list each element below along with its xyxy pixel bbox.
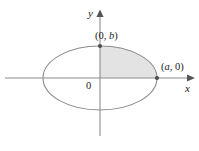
origin-label: 0 <box>86 81 91 92</box>
point-label-right-vertex: (a, 0) <box>161 62 184 73</box>
point-label-top-suffix: ) <box>114 30 118 41</box>
y-axis-label: y <box>88 8 93 19</box>
point-marker-top-vertex <box>98 44 102 48</box>
x-axis-label: x <box>185 83 190 94</box>
point-marker-right-vertex <box>155 76 159 80</box>
y-axis-arrowhead <box>96 10 103 18</box>
ellipse-diagram-svg <box>0 0 199 151</box>
x-axis-arrowhead <box>187 74 195 81</box>
shaded-quadrant-region <box>100 46 157 78</box>
point-label-right-suffix: , 0) <box>170 61 184 72</box>
point-label-top-prefix: (0, <box>95 30 109 41</box>
figure-container: y x (0, b) (a, 0) 0 <box>0 0 199 151</box>
point-label-top-vertex: (0, b) <box>95 31 118 42</box>
